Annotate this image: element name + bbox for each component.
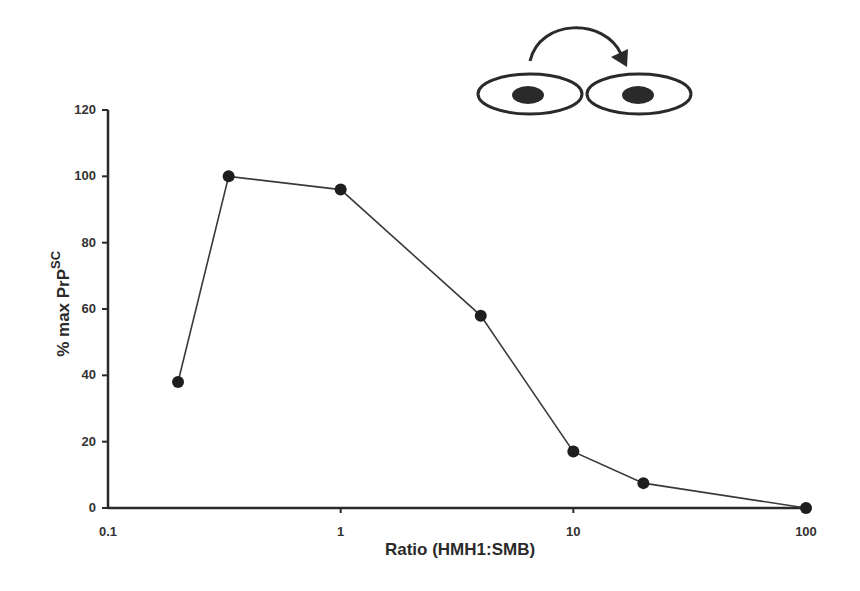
y-tick-label: 120 — [56, 102, 96, 117]
data-point-marker — [567, 446, 579, 458]
recipient-nucleus-icon — [622, 86, 654, 104]
x-tick-label: 100 — [776, 524, 836, 539]
data-point-marker — [637, 477, 649, 489]
transfer-arrow-icon — [530, 28, 621, 61]
data-point-marker — [475, 310, 487, 322]
donor-nucleus-icon — [512, 86, 544, 104]
y-axis-label: % max PrPSC — [50, 224, 74, 384]
x-tick-label: 10 — [543, 524, 603, 539]
series-line — [178, 176, 806, 508]
cell-transfer-diagram — [478, 28, 691, 114]
y-axis-label-main: % max PrP — [54, 269, 73, 357]
x-tick-label: 0.1 — [78, 524, 138, 539]
data-series — [172, 170, 812, 514]
y-tick-label: 100 — [56, 168, 96, 183]
y-tick-label: 0 — [56, 500, 96, 515]
chart-canvas — [0, 0, 860, 591]
data-point-marker — [223, 170, 235, 182]
data-point-marker — [172, 376, 184, 388]
data-point-marker — [335, 184, 347, 196]
x-tick-label: 1 — [311, 524, 371, 539]
axes — [102, 110, 810, 513]
y-tick-label: 20 — [56, 434, 96, 449]
data-point-marker — [800, 502, 812, 514]
y-axis-label-superscript: SC — [48, 251, 63, 269]
x-axis-label: Ratio (HMH1:SMB) — [300, 540, 620, 560]
